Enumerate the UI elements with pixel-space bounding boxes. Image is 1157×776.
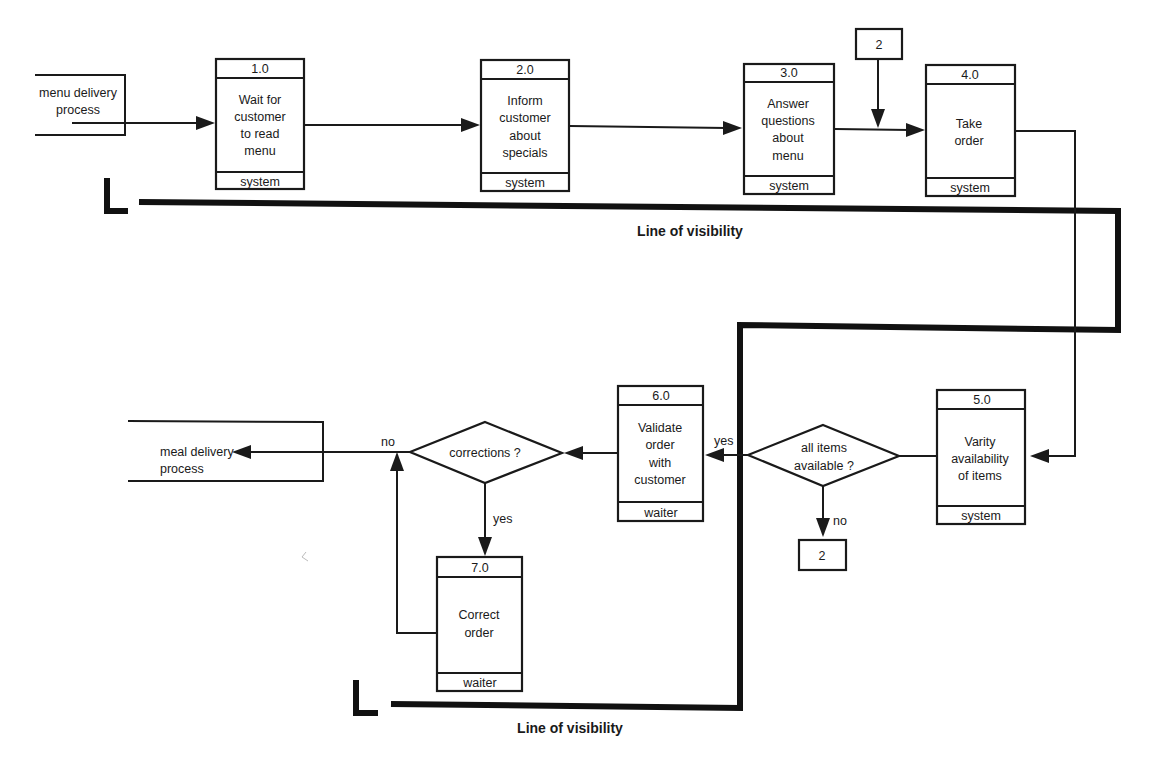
- svg-text:corrections ?: corrections ?: [449, 446, 521, 460]
- svg-text:about: about: [509, 129, 541, 143]
- svg-text:process: process: [56, 103, 100, 117]
- process-1-0: 1.0 Wait for customer to read menu syste…: [216, 59, 304, 189]
- svg-text:Validate: Validate: [638, 421, 682, 435]
- svg-text:order: order: [464, 626, 493, 640]
- process-actor: system: [505, 176, 545, 190]
- process-number: 7.0: [471, 561, 488, 575]
- process-actor: waiter: [462, 676, 496, 690]
- visibility-label-bottom: Line of visibility: [517, 720, 623, 736]
- svg-text:Wait for: Wait for: [239, 93, 282, 107]
- svg-text:customer: customer: [499, 111, 550, 125]
- process-3-0: 3.0 Answer questions about menu system: [744, 64, 834, 194]
- svg-text:about: about: [772, 131, 804, 145]
- arrow-head-icon: [906, 123, 925, 137]
- process-6-0: 6.0 Validate order with customer waiter: [618, 386, 703, 521]
- arrow-head-icon: [1030, 449, 1049, 463]
- arrow-head-icon: [461, 118, 480, 132]
- arrow-head-icon: [871, 109, 885, 128]
- process-7-0: 7.0 Correct order waiter: [437, 557, 522, 691]
- svg-text:customer: customer: [634, 473, 685, 487]
- svg-text:menu delivery: menu delivery: [39, 86, 118, 100]
- process-2-0: 2.0 Inform customer about specials syste…: [481, 60, 569, 191]
- arrow-head-icon: [232, 445, 251, 459]
- svg-text:of items: of items: [958, 469, 1002, 483]
- svg-text:2: 2: [876, 38, 883, 52]
- svg-text:2: 2: [819, 549, 826, 563]
- arrow-head-icon: [564, 446, 583, 460]
- svg-text:customer: customer: [234, 110, 285, 124]
- process-actor: system: [961, 509, 1001, 523]
- process-number: 3.0: [780, 66, 797, 80]
- process-number: 6.0: [652, 389, 669, 403]
- svg-text:to read: to read: [241, 127, 280, 141]
- process-5-0: 5.0 Varity availability of items system: [937, 390, 1025, 524]
- svg-text:menu: menu: [244, 144, 275, 158]
- service-blueprint-diagram: Line of visibility Line of visibility me…: [0, 0, 1157, 776]
- flow-label-yes-corrections: yes: [493, 512, 512, 526]
- svg-text:menu: menu: [772, 149, 803, 163]
- process-number: 4.0: [961, 68, 978, 82]
- arrow-head-icon: [478, 537, 492, 556]
- arrow-head-icon: [196, 116, 215, 130]
- svg-text:with: with: [648, 456, 671, 470]
- svg-text:order: order: [954, 134, 983, 148]
- flow-label-no-availability: no: [833, 514, 847, 528]
- arrow-head-icon: [705, 448, 724, 462]
- flow-label-no-corrections: no: [381, 435, 395, 449]
- flow-label-yes-availability: yes: [714, 434, 733, 448]
- svg-text:availability: availability: [951, 452, 1009, 466]
- svg-text:Take: Take: [956, 117, 982, 131]
- svg-text:questions: questions: [761, 114, 815, 128]
- svg-text:Varity: Varity: [964, 435, 996, 449]
- arrow-head-icon: [723, 121, 742, 135]
- process-actor: system: [240, 175, 280, 189]
- connector-2-top: 2: [856, 29, 902, 59]
- process-number: 1.0: [251, 62, 268, 76]
- decision-all-items-available: all items available ?: [748, 425, 899, 486]
- arrow-head-icon: [390, 452, 404, 471]
- connector-2-bottom: 2: [799, 540, 846, 570]
- svg-text:Correct: Correct: [459, 608, 501, 622]
- visibility-corner-marker-bottom: [356, 680, 378, 713]
- terminator-menu-delivery: menu delivery process: [35, 75, 125, 135]
- decision-corrections: corrections ?: [410, 422, 562, 483]
- process-4-0: 4.0 Take order system: [926, 65, 1015, 196]
- process-number: 2.0: [516, 63, 533, 77]
- svg-text:Inform: Inform: [507, 94, 542, 108]
- visibility-corner-marker-top: [107, 178, 128, 211]
- process-actor: system: [950, 181, 990, 195]
- process-actor: waiter: [643, 506, 677, 520]
- svg-text:specials: specials: [502, 146, 547, 160]
- arrow-head-icon: [816, 518, 830, 537]
- svg-text:all items: all items: [801, 441, 847, 455]
- svg-text:available ?: available ?: [794, 459, 854, 473]
- visibility-label-top: Line of visibility: [637, 223, 743, 239]
- svg-text:Answer: Answer: [767, 97, 809, 111]
- process-number: 5.0: [973, 393, 990, 407]
- stray-mark: [302, 552, 308, 561]
- process-actor: system: [769, 179, 809, 193]
- svg-text:meal delivery: meal delivery: [160, 445, 234, 459]
- svg-text:order: order: [645, 438, 674, 452]
- svg-text:process: process: [160, 462, 204, 476]
